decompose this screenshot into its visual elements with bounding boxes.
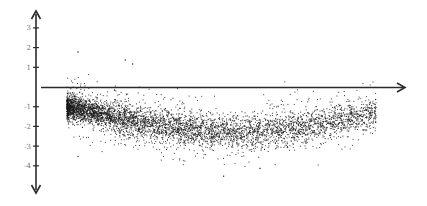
x-axis — [41, 83, 405, 92]
y-tick-label: -2 — [24, 123, 31, 131]
y-tick-label: 2 — [27, 44, 31, 52]
y-tick-label: 1 — [27, 64, 31, 72]
scatter-points — [67, 52, 377, 177]
scatter-chart: 321-1-2-3-4 — [0, 0, 427, 206]
y-tick-label: -4 — [24, 162, 31, 170]
y-tick-label: 3 — [27, 24, 31, 32]
y-tick-label: -1 — [24, 103, 31, 111]
y-axis: 321-1-2-3-4 — [24, 11, 40, 193]
y-tick-label: -3 — [24, 143, 31, 151]
